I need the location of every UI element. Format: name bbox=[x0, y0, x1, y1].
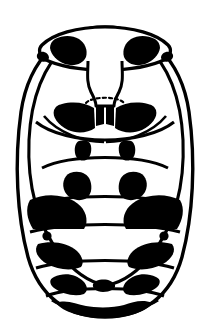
lateral-dot-right bbox=[159, 231, 168, 240]
segment-2-blotch-right bbox=[119, 140, 136, 160]
lateral-dot-left bbox=[42, 231, 51, 240]
segment-2-blotch-left bbox=[75, 140, 92, 160]
illustration-canvas bbox=[0, 0, 209, 336]
beetle-body-group bbox=[17, 27, 193, 318]
beetle-dorsal-illustration bbox=[0, 0, 209, 336]
segment-1-blotch-center-left bbox=[96, 106, 104, 126]
segment-1-blotch-center-right bbox=[106, 106, 114, 126]
